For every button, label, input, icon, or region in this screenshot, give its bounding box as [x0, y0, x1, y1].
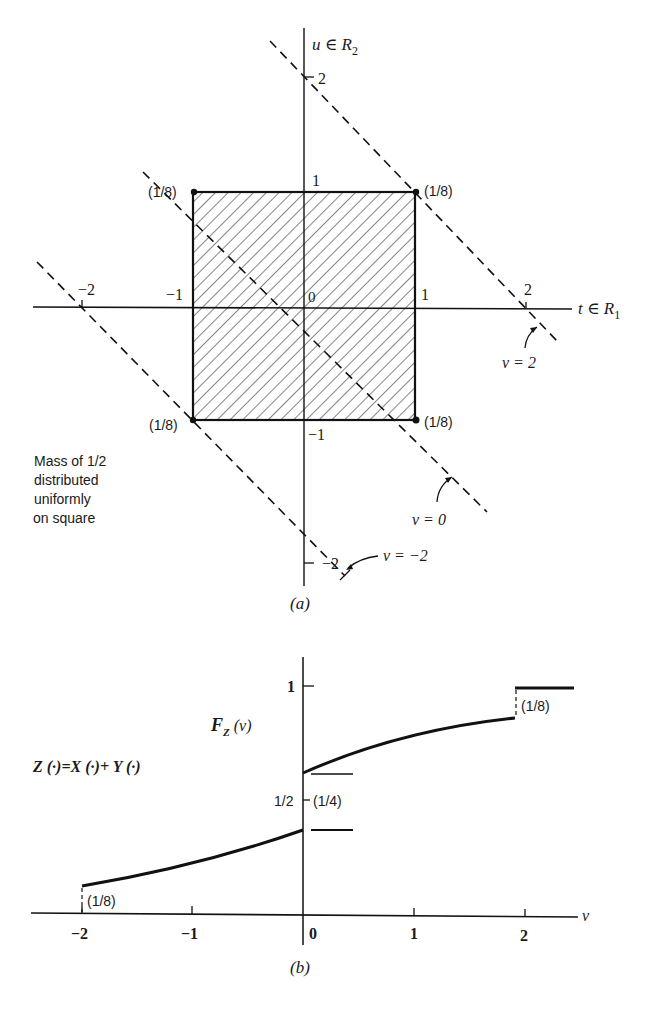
t-axis — [33, 307, 572, 309]
t-tick-label: 1 — [421, 286, 429, 303]
equation-label: Z (·)=X (·)+ Y (·) — [32, 758, 141, 776]
v-tick-label: −1 — [181, 925, 198, 942]
corner-mass-label: (1/8) — [148, 184, 177, 200]
mass-note: Mass of 1/2 distributed uniformly on squ… — [33, 453, 107, 526]
t-tick-label: −2 — [78, 281, 95, 298]
jump-label: (1/8) — [87, 893, 116, 909]
figure-b: FZ (v) Z (·)=X (·)+ Y (·) 1 1/2 (1/4) (1… — [31, 657, 590, 977]
line-label-v-2: v = 2 — [502, 354, 536, 371]
y-tick-label: 1/2 — [274, 793, 294, 809]
line-v-neg2-endcap — [340, 570, 350, 580]
corner-mass-label: (1/8) — [424, 183, 453, 199]
t-tick-label: 2 — [524, 281, 532, 298]
svg-text:uniformly: uniformly — [34, 491, 91, 507]
u-axis-label: u ∈ R2 — [312, 35, 358, 58]
jump-label: (1/8) — [521, 698, 550, 714]
cdf-segment-middle — [303, 718, 515, 773]
corner-dot-bottom-right — [413, 417, 420, 424]
function-label: FZ (v) — [210, 715, 252, 738]
t-tick-label: −1 — [166, 286, 183, 303]
svg-text:distributed: distributed — [34, 472, 99, 488]
figure-canvas: u ∈ R2 t ∈ R1 0 −2 −1 1 2 2 1 −1 −2 (1/8… — [0, 0, 650, 1013]
v-axis-label: v — [582, 907, 590, 924]
svg-text:Mass of 1/2: Mass of 1/2 — [34, 453, 107, 469]
u-tick-label: 2 — [318, 70, 326, 87]
origin-label: 0 — [308, 289, 316, 305]
y-tick-label: 1 — [287, 678, 295, 695]
u-tick-label: −1 — [308, 426, 325, 443]
corner-mass-label: (1/8) — [149, 417, 178, 433]
t-axis-label: t ∈ R1 — [578, 299, 620, 322]
corner-mass-label: (1/8) — [424, 414, 453, 430]
figure-a: u ∈ R2 t ∈ R1 0 −2 −1 1 2 2 1 −1 −2 (1/8… — [33, 28, 620, 613]
caption-a: (a) — [290, 594, 310, 613]
line-label-v-neg2: v = −2 — [383, 547, 428, 564]
corner-dot-top-left — [191, 189, 197, 195]
corner-dot-bottom-left — [190, 417, 196, 423]
cdf-segment-left — [82, 830, 303, 886]
svg-text:on square: on square — [33, 510, 95, 526]
arrow-v-0 — [437, 477, 452, 502]
v-axis — [31, 913, 578, 917]
corner-dot-top-right — [413, 189, 419, 195]
v-tick-label: 1 — [410, 925, 418, 942]
jump-label: (1/4) — [313, 793, 342, 809]
arrow-v-neg2 — [348, 556, 378, 568]
line-label-v-0: v = 0 — [412, 511, 446, 528]
v-tick-label: −2 — [71, 925, 88, 942]
v-tick-label: 2 — [520, 927, 528, 944]
v-tick-label: 0 — [309, 925, 317, 942]
u-tick-label: 1 — [312, 172, 320, 189]
arrow-v-2 — [525, 327, 537, 348]
u-tick-label: −2 — [322, 555, 339, 572]
caption-b: (b) — [290, 958, 310, 977]
